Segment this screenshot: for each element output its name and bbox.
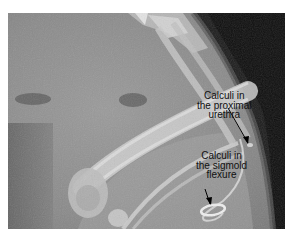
label-sigmoid-flexure: Calculi in the sigmold flexure <box>196 151 247 180</box>
label-line: urethra <box>197 110 251 120</box>
radiograph-image <box>8 13 285 229</box>
label-proximal-urethra: Calculi in the proximal urethra <box>197 91 251 120</box>
label-line: flexure <box>196 170 247 180</box>
xray-graphic <box>8 13 285 229</box>
